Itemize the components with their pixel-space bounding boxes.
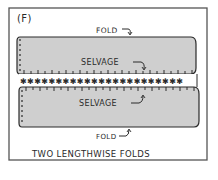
selvage-asterisk-row: ✱✱✱✱✱✱✱✱✱✱✱✱✱✱✱✱✱✱✱✱✱✱✱ <box>20 77 183 86</box>
panel-label: (F) <box>17 13 32 24</box>
figure-caption: TWO LENGTHWISE FOLDS <box>31 149 150 159</box>
top-fold-label: FOLD <box>96 26 118 35</box>
fabric-fold-diagram: (F) FOLD SELVAGE ✱✱✱✱✱✱✱✱✱✱✱✱✱✱✱✱✱✱✱✱✱✱✱ <box>0 0 218 180</box>
top-selvage-label: SELVAGE <box>81 58 119 67</box>
bottom-fold-label: FOLD <box>96 133 116 141</box>
bottom-selvage-label: SELVAGE <box>79 99 117 108</box>
top-fabric-panel <box>17 37 196 74</box>
